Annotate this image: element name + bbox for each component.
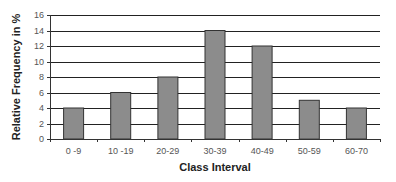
bar (158, 77, 178, 139)
x-tick-label: 40-49 (251, 146, 274, 156)
bar (252, 46, 272, 139)
x-tick-label: 50-59 (298, 146, 321, 156)
bar (346, 108, 366, 139)
y-tick-label: 2 (39, 119, 44, 129)
x-tick-label: 10 -19 (108, 146, 134, 156)
bar (111, 93, 131, 140)
x-tick-label: 60-70 (345, 146, 368, 156)
y-tick-label: 12 (34, 41, 44, 51)
y-tick-labels: 0246810121416 (34, 10, 44, 144)
bar (299, 100, 319, 139)
x-tick-label: 30-39 (203, 146, 226, 156)
y-tick-label: 10 (34, 57, 44, 67)
bar (205, 31, 225, 140)
y-axis-title: Relative Frequency in % (10, 14, 22, 141)
x-tick-label: 20-29 (156, 146, 179, 156)
y-tick-label: 16 (34, 10, 44, 20)
y-tick-label: 0 (39, 134, 44, 144)
y-tick-label: 8 (39, 72, 44, 82)
y-tick-label: 14 (34, 26, 44, 36)
bar-chart: 0246810121416 0 -910 -1920-2930-3940-495… (0, 0, 396, 182)
x-tick-labels: 0 -910 -1920-2930-3940-4950-5960-70 (66, 146, 368, 156)
x-axis-title: Class Interval (179, 161, 251, 173)
bar (64, 108, 84, 139)
x-tick-label: 0 -9 (66, 146, 82, 156)
y-tick-label: 6 (39, 88, 44, 98)
y-tick-label: 4 (39, 103, 44, 113)
